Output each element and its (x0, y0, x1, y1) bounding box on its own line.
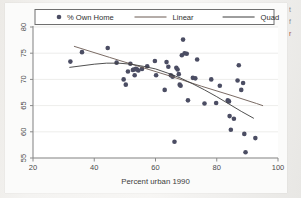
data-point (80, 50, 85, 55)
data-point (175, 67, 180, 72)
y-tick-label-55: 55 (19, 154, 28, 162)
data-point (227, 114, 232, 119)
data-point (162, 88, 167, 93)
data-point (186, 98, 191, 103)
data-point (121, 77, 126, 82)
data-point (209, 77, 214, 82)
margin-text-line-2: f (289, 16, 301, 28)
data-point (132, 73, 137, 78)
data-point (241, 81, 246, 86)
data-point (105, 46, 110, 51)
data-point (239, 88, 244, 93)
data-point (237, 63, 242, 68)
x-tick-label-80: 80 (213, 163, 221, 172)
data-point (195, 57, 200, 62)
data-point (154, 73, 159, 78)
data-point (166, 65, 171, 70)
data-point (184, 51, 189, 56)
data-point (235, 78, 240, 83)
data-point (242, 132, 247, 137)
x-axis-title: Percent urban 1990 (121, 177, 190, 186)
data-point (123, 82, 128, 87)
data-point (176, 72, 181, 77)
data-point (164, 60, 169, 65)
data-point (214, 101, 219, 106)
data-point (218, 83, 223, 88)
data-point (68, 59, 73, 64)
legend-label-0: % Own Home (67, 13, 114, 22)
page-margin-text: t f r (289, 4, 301, 54)
data-point (126, 69, 131, 74)
legend-marker-0 (57, 15, 62, 20)
x-tick-label-20: 20 (29, 163, 37, 172)
scatter-chart: 55606570758020406080100Percent urban 199… (0, 0, 301, 198)
y-tick-label-70: 70 (19, 75, 28, 83)
data-point (202, 101, 207, 106)
data-point (243, 150, 248, 155)
data-point (193, 76, 198, 81)
y-tick-label-60: 60 (19, 128, 28, 136)
data-point (253, 136, 258, 141)
data-point (114, 60, 119, 65)
margin-text-line-1: t (289, 4, 301, 16)
data-point (172, 139, 177, 144)
x-tick-label-40: 40 (90, 163, 98, 172)
y-tick-label-80: 80 (19, 23, 28, 31)
legend-label-1: Linear (173, 13, 195, 22)
x-tick-label-100: 100 (272, 163, 285, 172)
legend-label-2: Quad (261, 13, 280, 22)
plot-area-background (33, 27, 278, 158)
figure-container: 55606570758020406080100Percent urban 199… (0, 0, 301, 198)
data-point (232, 116, 237, 121)
x-tick-label-60: 60 (151, 163, 159, 172)
data-point (229, 127, 234, 132)
margin-text-line-3: r (289, 28, 301, 40)
data-point (178, 83, 183, 88)
y-tick-label-65: 65 (19, 101, 28, 109)
y-tick-label-75: 75 (19, 49, 28, 57)
data-point (181, 37, 186, 42)
data-point (153, 59, 158, 64)
